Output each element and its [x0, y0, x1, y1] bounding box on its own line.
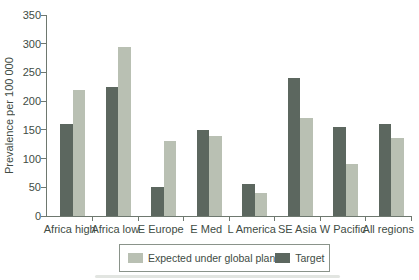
y-tick-label: 350 — [13, 9, 41, 21]
y-tick-label: 200 — [13, 95, 41, 107]
y-tick — [41, 72, 46, 73]
x-tick — [274, 216, 275, 221]
x-tick — [320, 216, 321, 221]
plot-area: Prevalence per 100 000 05010015020025030… — [46, 15, 411, 217]
bar-expected-africa-low — [118, 47, 131, 216]
y-tick — [41, 15, 46, 16]
bar-target-se-asia — [288, 78, 301, 216]
legend-label-target: Target — [295, 252, 324, 264]
legend: Expected under global plan Target — [119, 244, 330, 272]
bar-expected-all-regions — [391, 138, 404, 216]
y-tick — [41, 129, 46, 130]
bar-target-africa-high — [60, 124, 73, 216]
legend-swatch-expected — [128, 253, 143, 263]
y-tick-label: 50 — [13, 181, 41, 193]
y-tick-label: 150 — [13, 124, 41, 136]
bar-target-l-america — [242, 184, 255, 216]
y-tick — [41, 43, 46, 44]
bar-target-all-regions — [379, 124, 392, 216]
scan-artifact — [95, 275, 340, 278]
x-tick — [183, 216, 184, 221]
bar-expected-e-med — [209, 136, 222, 216]
x-tick — [229, 216, 230, 221]
bar-expected-se-asia — [300, 118, 313, 216]
y-tick — [41, 187, 46, 188]
y-tick-label: 100 — [13, 153, 41, 165]
y-tick — [41, 216, 46, 217]
x-tick — [138, 216, 139, 221]
bar-target-e-europe — [151, 187, 164, 216]
y-tick-label: 300 — [13, 38, 41, 50]
bar-target-w-pacific — [333, 127, 346, 216]
x-tick — [92, 216, 93, 221]
bar-expected-w-pacific — [346, 164, 359, 216]
x-tick — [365, 216, 366, 221]
bar-target-africa-low — [106, 87, 119, 216]
y-tick-label: 250 — [13, 66, 41, 78]
y-tick-label: 0 — [13, 210, 41, 222]
x-category-label: All regions — [348, 223, 419, 235]
legend-label-expected: Expected under global plan — [148, 252, 275, 264]
bar-target-e-med — [197, 130, 210, 216]
bar-expected-e-europe — [164, 141, 177, 216]
legend-swatch-target — [275, 253, 290, 263]
x-tick — [411, 216, 412, 221]
bar-expected-africa-high — [73, 90, 86, 216]
bar-expected-l-america — [255, 193, 268, 216]
y-tick — [41, 158, 46, 159]
y-tick — [41, 101, 46, 102]
